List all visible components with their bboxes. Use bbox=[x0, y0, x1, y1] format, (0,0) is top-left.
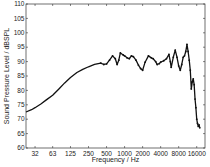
y-tick-label: 90 bbox=[17, 58, 25, 65]
x-tick-label: 4000 bbox=[153, 150, 168, 157]
y-tick-label: 95 bbox=[17, 43, 25, 50]
y-tick-label: 60 bbox=[17, 144, 25, 151]
x-tick-label: 8000 bbox=[171, 150, 186, 157]
y-tick-label: 65 bbox=[17, 130, 25, 137]
y-tick-label: 85 bbox=[17, 72, 25, 79]
y-tick-label: 80 bbox=[17, 87, 25, 94]
y-axis-label: Sound Pressure Level / dBSPL bbox=[3, 28, 10, 125]
spl-frequency-chart: 6065707580859095100105110 32631252505001… bbox=[0, 0, 210, 167]
x-tick-label: 125 bbox=[65, 150, 76, 157]
x-tick-label: 63 bbox=[49, 150, 57, 157]
y-tick-label: 100 bbox=[14, 29, 25, 36]
x-tick-label: 16000 bbox=[188, 150, 206, 157]
plot-area bbox=[26, 4, 205, 148]
y-tick-label: 75 bbox=[17, 101, 25, 108]
y-tick-label: 70 bbox=[17, 115, 25, 122]
y-tick-label: 110 bbox=[14, 0, 25, 7]
y-tick-label: 105 bbox=[14, 15, 25, 22]
x-tick-label: 32 bbox=[31, 150, 39, 157]
x-axis-label: Frequency / Hz bbox=[92, 156, 140, 164]
